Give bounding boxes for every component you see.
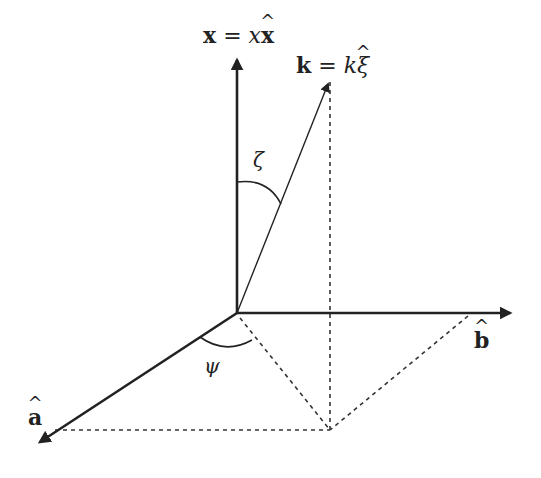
- k-label-unit: ^ξ: [357, 53, 369, 78]
- psi-angle-label: ψ: [204, 354, 220, 378]
- zeta-angle-arc: [237, 181, 281, 204]
- hat-accent: ^: [28, 394, 43, 414]
- projection-lines: [55, 82, 468, 430]
- x-axis-label-coef: x: [249, 23, 261, 48]
- hat-accent: ^: [356, 43, 371, 63]
- hat-accent: ^: [260, 12, 275, 32]
- zeta-angle-label: ζ: [253, 148, 264, 172]
- a-axis-label: ^a: [28, 404, 42, 430]
- x-axis-label-unit: ^x: [261, 22, 274, 48]
- k-label-equals: =: [318, 53, 336, 78]
- psi-angle-arc: [200, 337, 252, 347]
- x-axis-label-lhs: x: [203, 22, 216, 48]
- x-axis-label: x = x^x: [203, 22, 274, 48]
- k-vector: [237, 84, 328, 313]
- vector-diagram: [0, 0, 541, 478]
- k-vector-label: k = k^ξ: [296, 52, 369, 78]
- origin-to-projection-dashed-line: [240, 318, 330, 430]
- x-axis-label-equals: =: [223, 23, 241, 48]
- b-unit: ^b: [474, 327, 489, 353]
- hat-accent: ^: [474, 317, 489, 337]
- a-unit: ^a: [28, 404, 42, 430]
- b-parallel-dashed-line: [330, 316, 468, 430]
- k-label-lhs: k: [296, 52, 311, 78]
- b-axis-label: ^b: [474, 327, 489, 353]
